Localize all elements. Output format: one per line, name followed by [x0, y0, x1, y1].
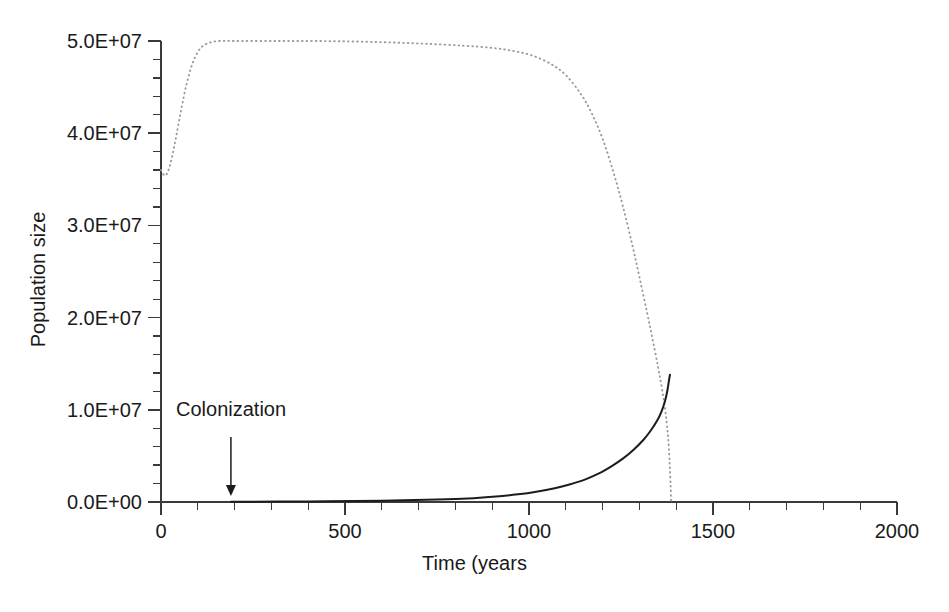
x-tick-label: 1000 [479, 521, 579, 541]
x-tick-label: 500 [295, 521, 395, 541]
x-tick-label: 1500 [663, 521, 763, 541]
colonization-annotation-label: Colonization [176, 398, 286, 421]
y-tick-label: 4.0E+07 [32, 123, 142, 143]
axes-group [161, 41, 897, 502]
x-tick-label: 2000 [847, 521, 947, 541]
x-tick-label: 0 [111, 521, 211, 541]
x-axis-title: Time (years [0, 552, 949, 575]
y-axis-title: Population size [27, 180, 50, 380]
y-tick-label: 1.0E+07 [32, 400, 142, 420]
chart-figure: 0.0E+001.0E+072.0E+073.0E+074.0E+075.0E+… [0, 0, 949, 612]
tick-marks-group [148, 41, 897, 515]
y-tick-label: 0.0E+00 [32, 492, 142, 512]
series-colonizer-population [231, 375, 670, 502]
y-tick-label: 5.0E+07 [32, 31, 142, 51]
series-prey-population [161, 41, 671, 502]
colonization-arrow-head [226, 485, 236, 496]
annotation-group [226, 437, 236, 496]
data-series-group [161, 41, 671, 502]
